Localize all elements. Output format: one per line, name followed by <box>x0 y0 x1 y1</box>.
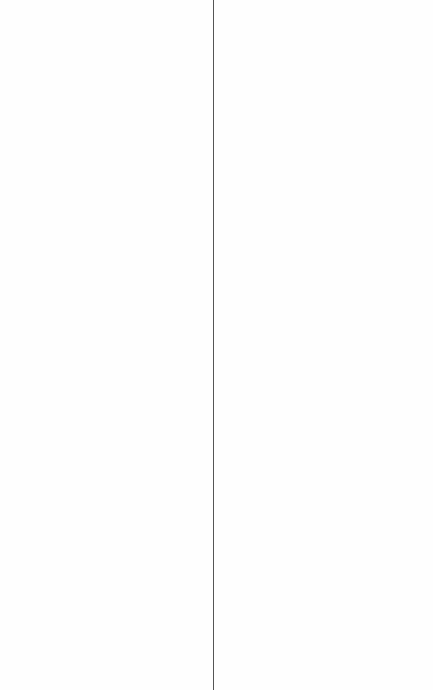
right-pane <box>214 0 433 690</box>
left-pane <box>0 0 213 690</box>
